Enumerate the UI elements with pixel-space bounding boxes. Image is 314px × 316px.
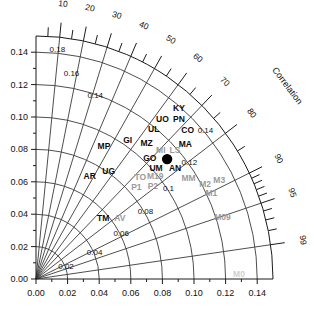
correlation-tick	[214, 112, 221, 118]
std-dev-arc-label: 0.04	[87, 248, 103, 257]
correlation-tick	[95, 35, 97, 44]
x-tick-label: 0.08	[154, 288, 172, 298]
model-point-label[interactable]: P2	[148, 181, 159, 191]
model-point-label[interactable]: MM	[181, 173, 195, 183]
correlation-axis-title: Correlation	[270, 65, 304, 106]
correlation-tick	[226, 124, 237, 133]
correlation-tick	[72, 30, 73, 39]
y-tick-label: 0.08	[10, 144, 28, 154]
correlation-tick-label: 20	[84, 2, 96, 14]
model-point-label[interactable]: GO	[143, 153, 157, 163]
correlation-tick	[266, 218, 274, 220]
std-dev-arc-label: 0.06	[113, 229, 129, 238]
model-point-label[interactable]: M19	[147, 171, 164, 181]
correlation-tick	[264, 208, 272, 210]
correlation-tick-label: 80	[245, 106, 259, 120]
correlation-tick-label: 50	[164, 33, 177, 47]
taylor-diagram-figure: 0.000.020.040.060.080.100.120.140.000.02…	[0, 0, 314, 316]
y-tick-label: 0.14	[10, 47, 28, 57]
correlation-tick	[202, 95, 212, 105]
correlation-radial-line	[36, 133, 226, 279]
x-axis-ticks: 0.000.020.040.060.080.100.120.14	[27, 279, 266, 298]
x-tick-label: 0.00	[27, 288, 45, 298]
model-point-label[interactable]: MP	[98, 141, 111, 151]
correlation-tick	[119, 43, 122, 51]
correlation-tick	[254, 180, 262, 183]
correlation-tick	[237, 146, 244, 151]
x-tick-label: 0.04	[90, 288, 108, 298]
y-tick-label: 0.06	[10, 177, 28, 187]
correlation-tick-label: 70	[218, 74, 232, 88]
correlation-tick	[107, 33, 111, 47]
correlation-radial-line	[36, 56, 131, 279]
model-point-label[interactable]: M09	[214, 212, 231, 222]
correlation-tick	[261, 199, 275, 204]
x-tick-label: 0.10	[185, 288, 203, 298]
model-point-label[interactable]: UG	[102, 166, 115, 176]
model-point-label[interactable]: MI	[156, 145, 165, 155]
correlation-tick	[166, 69, 171, 76]
y-axis-ticks: 0.000.020.040.060.080.100.120.14	[10, 47, 36, 284]
y-tick-label: 0.12	[10, 80, 28, 90]
model-point-label[interactable]: M1	[205, 188, 217, 198]
taylor-diagram-svg: 0.000.020.040.060.080.100.120.140.000.02…	[0, 0, 314, 316]
x-tick-label: 0.02	[59, 288, 77, 298]
correlation-tick	[259, 193, 267, 196]
std-dev-arc-label: 0.02	[58, 262, 74, 271]
correlation-tick	[143, 54, 147, 62]
x-tick-label: 0.12	[217, 288, 235, 298]
model-point-label[interactable]: AN	[169, 163, 181, 173]
model-point-label[interactable]: PN	[173, 114, 185, 124]
model-point-label[interactable]: TO	[134, 172, 146, 182]
y-tick-label: 0.00	[10, 274, 28, 284]
model-point-label[interactable]: UO	[156, 114, 169, 124]
model-point-label[interactable]: P1	[131, 182, 142, 192]
correlation-tick	[249, 167, 262, 173]
model-point-label[interactable]: MA	[179, 139, 192, 149]
correlation-tick-label: 90	[272, 152, 285, 165]
std-dev-arc-label: 0.08	[138, 207, 154, 216]
model-point-label[interactable]: GI	[123, 135, 132, 145]
correlation-tick	[60, 23, 61, 38]
reference-point[interactable]	[162, 154, 172, 164]
correlation-tick	[131, 43, 137, 56]
correlation-tick	[268, 229, 277, 231]
correlation-radial-line	[36, 47, 107, 279]
rms-arc-label: 0.18	[50, 45, 66, 54]
rms-arc-label: 0.16	[64, 69, 80, 78]
correlation-tick	[83, 27, 86, 41]
y-tick-label: 0.10	[10, 112, 28, 122]
model-point-label[interactable]: M3	[213, 175, 225, 185]
rms-arc-labels: 0.140.160.18	[50, 45, 104, 99]
correlation-tick-label: 99	[298, 235, 309, 246]
std-dev-arc-label: 0.12	[182, 158, 198, 167]
correlation-tick-label: 60	[191, 51, 205, 65]
model-point-label[interactable]: AV	[114, 213, 126, 223]
correlation-tick-label: 30	[111, 9, 123, 21]
model-point-label[interactable]: KY	[173, 103, 185, 113]
correlation-tick-label: 10	[58, 0, 69, 9]
correlation-tick	[190, 88, 196, 95]
y-tick-label: 0.04	[10, 209, 28, 219]
x-tick-label: 0.14	[248, 288, 266, 298]
rms-arc-label: 0.14	[87, 91, 103, 100]
correlation-tick	[155, 56, 162, 69]
model-point-label[interactable]: UL	[148, 124, 159, 134]
correlation-tick	[256, 186, 264, 189]
correlation-tick	[271, 243, 285, 245]
model-point-label[interactable]: AR	[84, 171, 96, 181]
std-dev-arc-label: 0.14	[198, 126, 214, 135]
correlation-tick-label: 40	[138, 19, 151, 32]
x-tick-label: 0.06	[122, 288, 140, 298]
std-dev-arc-label: 0.1	[163, 184, 175, 193]
model-point-label[interactable]: CO	[181, 125, 194, 135]
correlation-tick	[252, 175, 260, 179]
correlation-tick-label: 95	[286, 186, 299, 198]
model-point-label[interactable]: LS	[170, 145, 181, 155]
model-point-label[interactable]: M0	[233, 269, 245, 279]
model-point-label[interactable]: TM	[97, 213, 109, 223]
model-point-label[interactable]: MZ	[140, 138, 152, 148]
correlation-tick	[178, 73, 187, 85]
y-tick-label: 0.02	[10, 242, 28, 252]
